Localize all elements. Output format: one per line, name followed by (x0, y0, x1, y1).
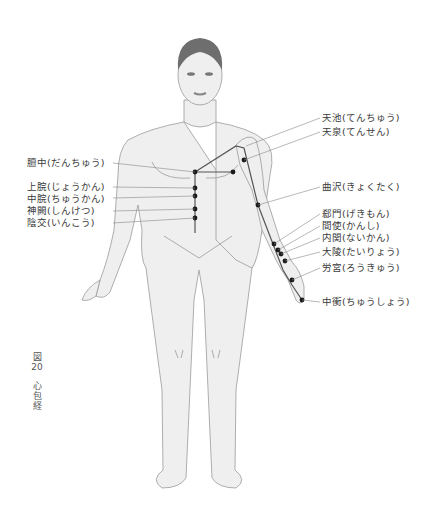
figure-caption: 図 20 心包経 (30, 352, 44, 412)
label-jokan: 上脘(じょうかん) (27, 182, 104, 192)
body-figure (0, 0, 438, 515)
figure-number-label: 図 (30, 352, 44, 362)
label-naikan: 内関(ないかん) (322, 233, 389, 243)
label-kanshi: 間使(かんし) (322, 221, 379, 231)
label-gekimon: 郄門(げきもん) (322, 209, 389, 219)
head (178, 38, 222, 105)
label-tenchu: 天池(てんちゅう) (322, 113, 399, 123)
label-inko: 陰交(いんこう) (27, 218, 94, 228)
label-rokyu: 労宮(ろうきゅう) (322, 263, 399, 273)
label-shinketsu: 神闕(しんけつ) (27, 206, 94, 216)
label-kyokutaku: 曲沢(きょくたく) (322, 182, 399, 192)
figure-title: 心包経 (32, 381, 42, 412)
figure-number: 20 (30, 362, 44, 372)
label-tairyo: 大陵(たいりょう) (322, 247, 399, 257)
body-silhouette (82, 100, 304, 488)
label-chusho: 中衝(ちゅうしょう) (322, 297, 409, 307)
label-tensen: 天泉(てんせん) (322, 127, 389, 137)
label-chukan: 中脘(ちゅうかん) (27, 194, 104, 204)
label-danchu: 膻中(だんちゅう) (27, 158, 104, 168)
